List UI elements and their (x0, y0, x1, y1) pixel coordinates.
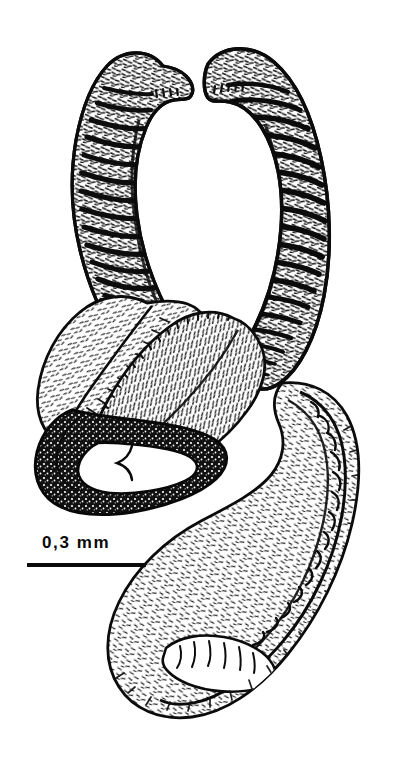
figure-root: 0,3 mm (0, 0, 414, 762)
scale-bar (27, 563, 146, 567)
scale-label: 0,3 mm (42, 533, 110, 553)
illustration-svg (0, 0, 414, 762)
